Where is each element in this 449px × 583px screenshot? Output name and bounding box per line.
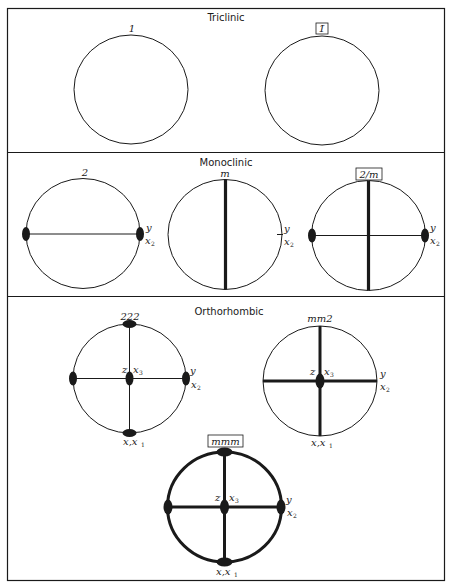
axis-label-z: z [309, 366, 316, 377]
section-title-orthorhombic: Orthorhombic [194, 306, 263, 317]
stereogram-2: 2 y x 2 [22, 167, 155, 289]
stereogram-222: 222 z x 3 y x 2 x,x 1 [69, 311, 201, 448]
point-group-symbol: m [220, 168, 229, 179]
twofold-axis-icon [220, 500, 229, 515]
axis-label-x-x: x,x [216, 566, 231, 577]
axis-label-y: y [429, 222, 436, 233]
axis-label-subscript: 3 [235, 497, 239, 504]
axis-label-x-x: x,x [311, 437, 326, 448]
section-title-triclinic: Triclinic [206, 12, 244, 23]
twofold-axis-icon [164, 500, 173, 515]
point-group-symbol: mmm [211, 436, 239, 447]
axis-label-z: z [121, 364, 128, 375]
twofold-axis-icon [277, 500, 286, 515]
twofold-axis-icon [182, 372, 190, 386]
primitive-circle [74, 35, 188, 144]
axis-label-y: y [189, 365, 196, 376]
primitive-circle [265, 36, 379, 145]
twofold-axis-icon [136, 227, 144, 241]
stereogram-2-over-m: 2/m y x 2 [308, 168, 440, 291]
axis-label-subscript: 1 [329, 442, 333, 449]
twofold-axis-icon [421, 229, 429, 243]
crystal-point-group-figure: Triclinic 1 1̄ Monoclinic 2 y x 2 m y x … [0, 0, 449, 583]
twofold-axis-icon [22, 227, 30, 241]
section-title-monoclinic: Monoclinic [200, 157, 253, 168]
stereogram-mmm: mmm z x 3 y x 2 x,x 1 [164, 435, 298, 578]
axis-label-subscript: 2 [293, 512, 297, 519]
axis-label-subscript: 2 [197, 384, 201, 391]
point-group-symbol: 2 [81, 167, 88, 178]
point-group-symbol: 1 [129, 23, 135, 34]
axis-label-subscript: 1 [141, 441, 145, 448]
twofold-axis-icon [308, 229, 316, 243]
twofold-axis-icon [69, 372, 77, 386]
twofold-axis-icon [217, 448, 233, 457]
axis-label-y: y [145, 222, 152, 233]
axis-label-subscript: 2 [290, 241, 294, 248]
stereogram-m: m y x 2 [168, 168, 294, 290]
axis-label-y: y [379, 368, 386, 379]
axis-label-subscript: 2 [436, 240, 440, 247]
axis-label-subscript: 3 [330, 371, 334, 378]
axis-label-y: y [283, 223, 290, 234]
stereogram-mm2: mm2 z x 3 y x 2 x,x 1 [263, 313, 390, 449]
point-group-symbol: 2/m [358, 169, 378, 180]
axis-label-subscript: 1 [234, 571, 238, 578]
axis-label-x-x: x,x [123, 436, 138, 447]
stereogram-1: 1 [74, 23, 188, 144]
axis-label-z: z [214, 492, 221, 503]
axis-label-subscript: 2 [151, 240, 155, 247]
point-group-symbol: mm2 [307, 313, 332, 324]
stereogram-1-bar: 1̄ [265, 23, 379, 145]
point-group-symbol: 1̄ [319, 23, 325, 34]
axis-label-subscript: 3 [139, 369, 143, 376]
axis-label-y: y [285, 494, 292, 505]
twofold-axis-icon [123, 320, 137, 328]
axis-label-subscript: 2 [386, 386, 390, 393]
